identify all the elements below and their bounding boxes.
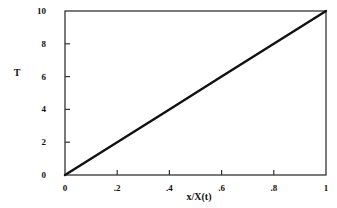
x-tick-label: .2: [114, 183, 121, 193]
y-tick-label: 10: [37, 6, 47, 16]
y-tick-label: 6: [42, 72, 47, 82]
x-tick-label: .4: [166, 183, 173, 193]
series-line: [65, 11, 326, 175]
x-tick-label: .6: [218, 183, 225, 193]
line-chart: 0246810 0.2.4.6.81 x/X(t) T: [0, 0, 337, 208]
y-tick-label: 4: [42, 104, 47, 114]
x-axis-title: x/X(t): [187, 191, 212, 203]
x-tick-label: 1: [324, 183, 329, 193]
y-axis-title: T: [14, 67, 21, 78]
x-tick-label: 0: [63, 183, 68, 193]
y-tick-label: 8: [42, 39, 47, 49]
y-tick-label: 2: [42, 137, 47, 147]
data-series: [65, 11, 326, 175]
x-tick-label: .8: [270, 183, 277, 193]
y-tick-label: 0: [42, 170, 47, 180]
x-axis-ticks: 0.2.4.6.81: [63, 170, 329, 193]
